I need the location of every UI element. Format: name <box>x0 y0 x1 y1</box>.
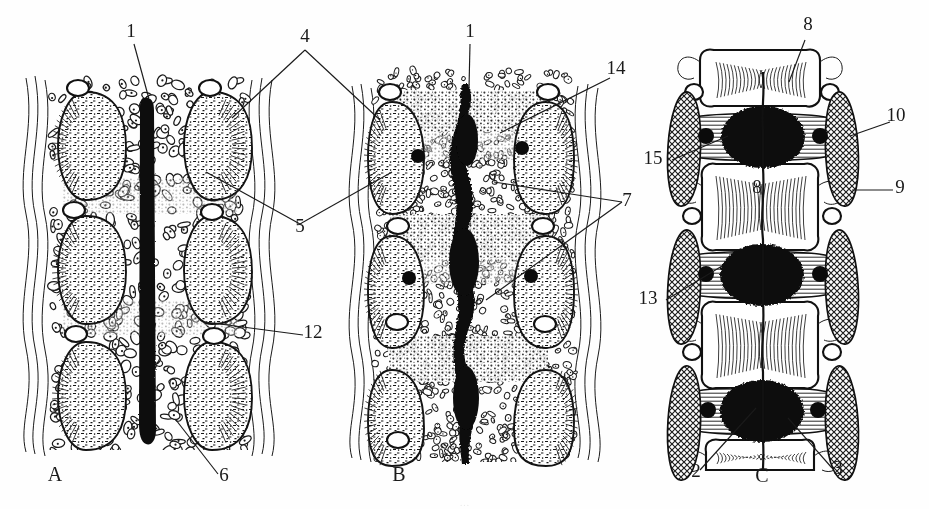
callout-5-bracket: 5 <box>295 215 305 236</box>
callout-13-panel-c: 13 <box>639 287 658 308</box>
callout-1-panel-a: 1 <box>126 20 136 41</box>
panel-a-notochord <box>139 97 156 444</box>
callout-8-top-panel-c: 8 <box>803 13 813 34</box>
disc-anlage-b-right-1 <box>514 102 574 214</box>
callout-15-panel-c: 15 <box>644 147 663 168</box>
callout-12-panel-b: 12 <box>304 321 323 342</box>
panel-c-median-line <box>762 72 764 470</box>
vertebral-body-c-1 <box>700 49 820 106</box>
disc-anlage-a-left-1 <box>58 92 126 200</box>
disc-anlage-b-left-2 <box>368 236 424 348</box>
panel-a-early-stage <box>23 74 275 459</box>
panel-label-b: B <box>392 463 405 485</box>
disc-anlage-a-left-3 <box>58 342 126 450</box>
figure-root: 114561214788109151323 ABC … <box>0 0 929 509</box>
panel-label-c: C <box>755 464 768 486</box>
callout-3-panel-c: 3 <box>833 457 843 478</box>
callout-2-panel-c: 2 <box>691 460 701 481</box>
disc-anlage-a-right-3 <box>184 342 252 450</box>
panel-c-definitive-stage <box>668 49 859 480</box>
panel-label-a: A <box>48 463 63 485</box>
callout-10-panel-c: 10 <box>887 104 906 125</box>
callout-14-panel-b: 14 <box>607 57 627 78</box>
disc-anlage-a-left-2 <box>58 216 126 324</box>
panel-b-intermediate-stage <box>349 65 601 466</box>
callout-8-inner-panel-c: 8 <box>752 176 762 197</box>
callout-7-bracket: 7 <box>622 189 632 210</box>
callout-9-panel-c: 9 <box>895 176 905 197</box>
callout-1-panel-b: 1 <box>465 20 475 41</box>
disc-anlage-a-right-2 <box>184 216 252 324</box>
callout-6-panel-a: 6 <box>219 464 229 485</box>
callout-4-bracket: 4 <box>300 25 310 46</box>
anatomical-figure-svg: 114561214788109151323 ABC <box>0 0 929 509</box>
